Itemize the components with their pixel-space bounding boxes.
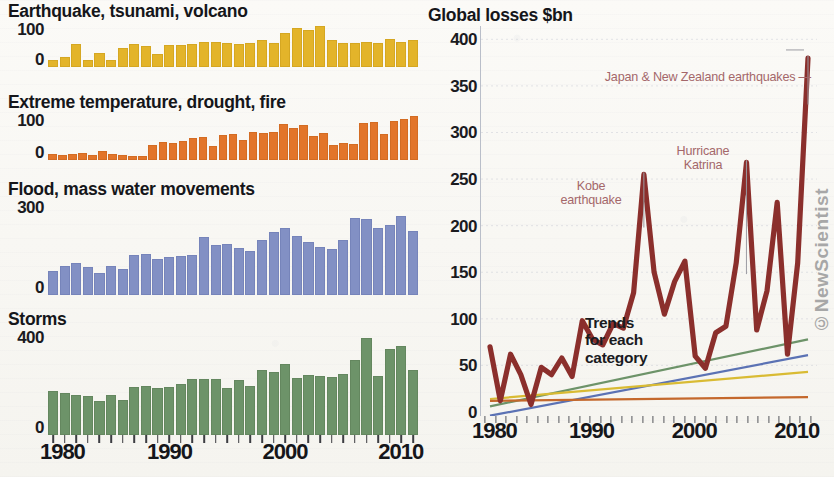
bar bbox=[292, 236, 302, 296]
right-chart-column: Global losses $bn 0501001502002503003504… bbox=[418, 0, 834, 477]
bars-flood bbox=[48, 216, 418, 295]
bar bbox=[315, 376, 325, 435]
x-axis-label: 1990 bbox=[569, 420, 614, 442]
bar bbox=[176, 256, 186, 295]
bar bbox=[396, 42, 406, 67]
bar bbox=[350, 218, 360, 296]
bar bbox=[234, 380, 244, 435]
bar bbox=[199, 42, 209, 67]
bar bbox=[292, 378, 302, 436]
series-line bbox=[490, 58, 808, 405]
bar bbox=[289, 128, 298, 160]
bars-extreme-temperature bbox=[48, 116, 418, 160]
bar bbox=[373, 376, 383, 435]
bar bbox=[279, 124, 288, 160]
bar bbox=[106, 395, 116, 435]
bar bbox=[396, 216, 406, 295]
bar bbox=[60, 57, 70, 68]
y-tick-label: 300 bbox=[450, 124, 477, 141]
y-tick-label: 250 bbox=[450, 171, 477, 188]
bar bbox=[58, 155, 67, 160]
y-tick-label: 300 bbox=[17, 199, 44, 216]
bar bbox=[257, 240, 267, 296]
bar bbox=[176, 45, 186, 67]
y-tick-label: 200 bbox=[450, 217, 477, 234]
y-tick-label: 400 bbox=[17, 329, 44, 346]
chart-panel-flood: Flood, mass water movements 300 0 bbox=[0, 180, 418, 295]
bar bbox=[88, 155, 97, 160]
line-chart-svg bbox=[481, 26, 817, 416]
bar bbox=[338, 240, 348, 295]
bar bbox=[303, 242, 313, 295]
bars-storms bbox=[48, 338, 418, 435]
bar bbox=[309, 136, 318, 160]
bar bbox=[339, 143, 348, 161]
chart-panel-extreme-temperature: Extreme temperature, drought, fire 100 0 bbox=[0, 93, 418, 160]
y-tick-label: 0 bbox=[35, 419, 44, 436]
bar bbox=[292, 28, 302, 68]
bar bbox=[141, 46, 151, 67]
bar bbox=[327, 249, 337, 295]
bar bbox=[118, 400, 128, 435]
bar bbox=[361, 219, 371, 295]
bar bbox=[138, 156, 147, 160]
bar bbox=[148, 145, 157, 161]
bar bbox=[199, 379, 209, 436]
bar bbox=[98, 151, 107, 161]
bar bbox=[315, 247, 325, 295]
bar bbox=[222, 388, 232, 436]
newscientist-credit: ©NewScientist bbox=[811, 188, 833, 334]
bar bbox=[408, 40, 418, 68]
bar bbox=[234, 248, 244, 295]
bar bbox=[118, 48, 128, 67]
bar bbox=[129, 255, 139, 295]
bar bbox=[361, 42, 371, 67]
bar bbox=[280, 33, 290, 67]
bar bbox=[83, 267, 93, 295]
bar bbox=[269, 372, 279, 435]
bar bbox=[179, 141, 188, 160]
bar bbox=[187, 379, 197, 435]
bar bbox=[152, 54, 162, 67]
x-axis-labels-right: 1980199020002010 bbox=[480, 420, 816, 450]
bar bbox=[249, 132, 258, 160]
chart-title-extreme-temperature: Extreme temperature, drought, fire bbox=[8, 93, 418, 111]
bar bbox=[350, 360, 360, 436]
bar bbox=[199, 237, 209, 295]
bar bbox=[48, 60, 58, 68]
bar bbox=[408, 370, 418, 435]
global-losses-plot: 050100150200250300350400 Japan & New Zea… bbox=[418, 26, 834, 446]
y-tick-label: 400 bbox=[450, 31, 477, 48]
y-axis-storms: 400 0 bbox=[0, 329, 48, 435]
bar bbox=[385, 39, 395, 67]
y-tick-label: 100 bbox=[450, 310, 477, 327]
x-axis-label: 2000 bbox=[672, 420, 717, 442]
bar bbox=[68, 154, 77, 160]
y-tick-label: 100 bbox=[17, 21, 44, 38]
bar bbox=[269, 132, 278, 161]
bar bbox=[385, 225, 395, 296]
y-tick-label: 0 bbox=[35, 144, 44, 161]
bar bbox=[257, 370, 267, 435]
bar bbox=[303, 30, 313, 68]
bar bbox=[269, 43, 279, 67]
bar bbox=[141, 386, 151, 435]
bar bbox=[350, 43, 360, 68]
line-chart-canvas: Japan & New Zealand earthquakes — Hurric… bbox=[480, 26, 817, 416]
annotation-japan-nz-earthquakes: Japan & New Zealand earthquakes — bbox=[605, 70, 811, 84]
x-axis-label: 1980 bbox=[472, 420, 517, 442]
bar bbox=[83, 60, 93, 68]
x-axis-labels-left: 1980199020002010 bbox=[48, 441, 418, 465]
bar bbox=[229, 134, 238, 161]
bar bbox=[141, 254, 151, 295]
bar bbox=[269, 232, 279, 296]
bar bbox=[83, 396, 93, 436]
bars-earthquake bbox=[48, 26, 418, 67]
bar bbox=[94, 401, 104, 435]
bar bbox=[60, 393, 70, 435]
bar bbox=[60, 266, 70, 295]
bar bbox=[245, 251, 255, 296]
x-axis-label: 2000 bbox=[263, 441, 308, 463]
bar bbox=[176, 384, 186, 435]
chart-title-storms: Storms bbox=[8, 310, 418, 328]
